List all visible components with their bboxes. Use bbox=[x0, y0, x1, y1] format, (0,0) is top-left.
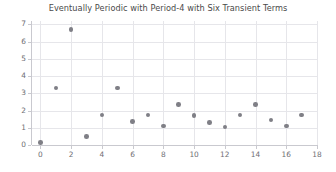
gridline-vertical bbox=[317, 21, 318, 145]
y-tick-mark bbox=[28, 145, 31, 146]
y-tick-label: 0 bbox=[8, 141, 26, 148]
y-tick-mark bbox=[28, 42, 31, 43]
scatter-chart-figure: Eventually Periodic with Period-4 with S… bbox=[0, 0, 336, 172]
gridline-vertical bbox=[256, 21, 257, 145]
x-tick-mark bbox=[225, 146, 226, 149]
x-tick-label: 16 bbox=[276, 151, 296, 158]
x-tick-label: 18 bbox=[307, 151, 327, 158]
x-tick-label: 4 bbox=[92, 151, 112, 158]
y-tick-label: 4 bbox=[8, 72, 26, 79]
data-point bbox=[253, 102, 258, 107]
x-tick-label: 8 bbox=[153, 151, 173, 158]
x-tick-mark bbox=[256, 146, 257, 149]
y-tick-mark bbox=[28, 76, 31, 77]
y-tick-mark bbox=[28, 128, 31, 129]
y-tick-label: 7 bbox=[8, 20, 26, 27]
data-point bbox=[69, 27, 74, 32]
gridline-horizontal bbox=[32, 93, 317, 94]
gridline-vertical bbox=[40, 21, 41, 145]
x-tick-mark bbox=[163, 146, 164, 149]
gridline-horizontal bbox=[32, 128, 317, 129]
x-tick-label: 0 bbox=[30, 151, 50, 158]
data-point bbox=[161, 124, 166, 129]
gridline-vertical bbox=[194, 21, 195, 145]
gridline-horizontal bbox=[32, 42, 317, 43]
chart-title: Eventually Periodic with Period-4 with S… bbox=[0, 3, 336, 13]
x-axis-spine bbox=[32, 145, 318, 146]
y-tick-mark bbox=[28, 93, 31, 94]
x-tick-mark bbox=[317, 146, 318, 149]
gridline-vertical bbox=[133, 21, 134, 145]
x-tick-label: 2 bbox=[61, 151, 81, 158]
x-tick-mark bbox=[286, 146, 287, 149]
data-point bbox=[84, 134, 89, 139]
y-tick-label: 1 bbox=[8, 124, 26, 131]
data-point bbox=[269, 118, 274, 123]
data-point bbox=[284, 124, 289, 129]
data-point bbox=[54, 86, 59, 91]
x-tick-label: 10 bbox=[184, 151, 204, 158]
data-point bbox=[100, 113, 105, 118]
x-tick-label: 12 bbox=[215, 151, 235, 158]
x-tick-mark bbox=[40, 146, 41, 149]
y-tick-label: 3 bbox=[8, 89, 26, 96]
data-point bbox=[176, 102, 181, 107]
data-point bbox=[146, 113, 151, 118]
data-point bbox=[207, 120, 212, 125]
gridline-horizontal bbox=[32, 76, 317, 77]
y-tick-mark bbox=[28, 111, 31, 112]
y-axis-spine bbox=[31, 21, 32, 145]
gridline-vertical bbox=[102, 21, 103, 145]
plot-area bbox=[32, 21, 317, 145]
data-point bbox=[238, 113, 243, 118]
y-tick-label: 2 bbox=[8, 107, 26, 114]
gridline-vertical bbox=[71, 21, 72, 145]
data-point bbox=[299, 113, 304, 118]
gridline-horizontal bbox=[32, 59, 317, 60]
data-point bbox=[115, 86, 120, 91]
x-tick-mark bbox=[102, 146, 103, 149]
gridline-horizontal bbox=[32, 111, 317, 112]
y-tick-label: 6 bbox=[8, 38, 26, 45]
y-tick-mark bbox=[28, 24, 31, 25]
x-tick-label: 14 bbox=[246, 151, 266, 158]
data-point bbox=[192, 113, 197, 118]
gridline-horizontal bbox=[32, 24, 317, 25]
data-point bbox=[130, 119, 135, 124]
x-tick-mark bbox=[133, 146, 134, 149]
x-tick-label: 6 bbox=[123, 151, 143, 158]
x-tick-mark bbox=[194, 146, 195, 149]
y-tick-mark bbox=[28, 59, 31, 60]
y-tick-label: 5 bbox=[8, 55, 26, 62]
x-tick-mark bbox=[71, 146, 72, 149]
data-point bbox=[38, 140, 43, 145]
